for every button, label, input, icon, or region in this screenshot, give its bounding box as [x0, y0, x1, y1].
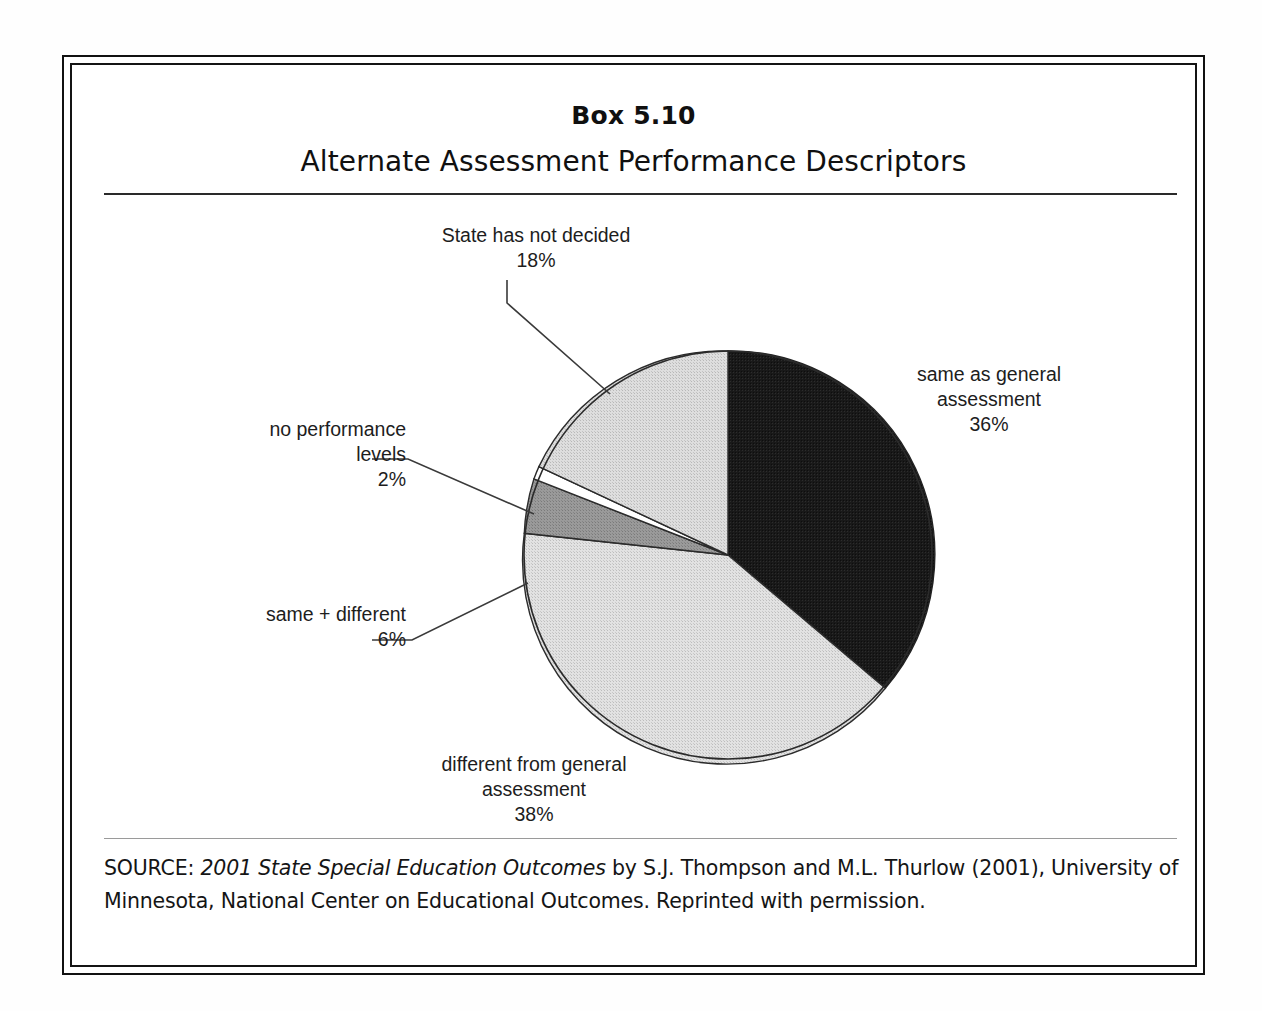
pie-label-no-performance-levels: no performance levels 2%: [156, 417, 406, 492]
figure-frame-outer: Box 5.10 Alternate Assessment Performanc…: [62, 55, 1205, 975]
pie-label-state-has-not-decided: State has not decided 18%: [401, 223, 671, 273]
page-background: Box 5.10 Alternate Assessment Performanc…: [0, 0, 1262, 1011]
pie-label-same-as-general: same as general assessment 36%: [854, 362, 1124, 437]
figure-content: Box 5.10 Alternate Assessment Performanc…: [64, 57, 1203, 973]
pie-label-different-from-general: different from general assessment 38%: [374, 752, 694, 827]
pie-label-same-plus-different: same + different 6%: [156, 602, 406, 652]
source-prefix: SOURCE:: [104, 856, 200, 880]
leader-line-state-has-not-decided: [507, 280, 610, 394]
source-divider: [104, 838, 1177, 839]
pie-chart: State has not decided 18% no performance…: [64, 57, 1203, 973]
source-note: SOURCE: 2001 State Special Education Out…: [104, 852, 1184, 918]
source-work-title: 2001 State Special Education Outcomes: [200, 856, 605, 880]
pie-chart-svg: [64, 57, 1207, 977]
